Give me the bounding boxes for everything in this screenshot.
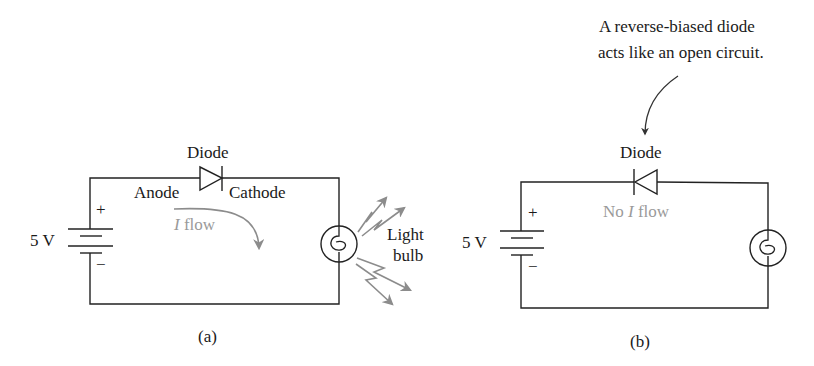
current-flow-label: I flow [173,215,216,234]
negative-terminal-label: − [96,255,106,274]
light-bulb-icon [750,230,786,266]
battery-icon [68,229,113,253]
light-bulb-icon [321,226,357,262]
diode-reverse-icon [634,169,657,195]
caption-b: (b) [630,332,650,351]
positive-terminal-label: + [528,203,538,222]
annotation-line2: acts like an open circuit. [598,43,764,62]
cathode-label: Cathode [229,183,286,202]
positive-terminal-label: + [96,200,106,219]
annotation-arrow-icon [645,76,678,134]
battery-voltage-label: 5 V [462,233,487,252]
battery-voltage-label: 5 V [30,231,55,250]
circuit-a-forward-biased: 5 V + − Diode Anode Cathode I flow Light… [30,143,424,346]
annotation-line1: A reverse-biased diode [599,17,755,36]
circuit-b-reverse-biased: A reverse-biased diode acts like an open… [462,17,786,351]
negative-terminal-label: − [528,257,538,276]
light-bulb-label-line2: bulb [393,246,423,265]
battery-icon [500,231,544,255]
diode-label: Diode [620,143,662,162]
circuit-a-wires [90,178,339,304]
diode-forward-icon [200,166,222,191]
light-bulb-label-line1: Light [387,225,424,244]
caption-a: (a) [198,327,217,346]
anode-label: Anode [134,183,179,202]
no-current-flow-label: No I flow [603,202,670,221]
diode-bias-diagram: 5 V + − Diode Anode Cathode I flow Light… [0,0,814,366]
circuit-b-wires [521,182,768,308]
diode-label: Diode [187,143,229,162]
